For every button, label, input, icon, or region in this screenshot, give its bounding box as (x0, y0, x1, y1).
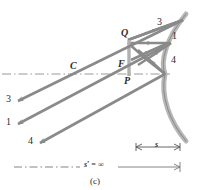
point-label-C: C (70, 61, 77, 71)
reflected-ray-4 (40, 74, 165, 143)
ray-label-3-incident: 3 (157, 17, 162, 27)
ray-label-4-incident: 4 (171, 55, 176, 65)
point-label-F: F (118, 59, 125, 69)
point-label-P: P (124, 76, 130, 86)
ray-label-4-reflected: 4 (28, 136, 33, 146)
ray-label-1-incident: 1 (172, 31, 177, 41)
ray-label-3-reflected: 3 (6, 94, 11, 104)
reflected-rays (18, 20, 183, 143)
ray-label-1-reflected: 1 (6, 117, 11, 127)
point-label-Q: Q (121, 28, 128, 38)
dimension-label-s-prime: s′ = ∞ (84, 161, 104, 169)
dimension-label-s: s (155, 141, 158, 149)
ray-diagram-figure: C Q F P 3 1 4 3 1 4 s s′ = ∞ (c) (0, 0, 200, 190)
figure-caption: (c) (90, 177, 100, 186)
reflected-ray-3 (18, 20, 183, 101)
